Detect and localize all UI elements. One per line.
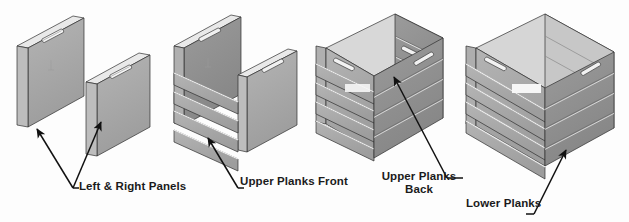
label-upper-planks-front: Upper Planks Front: [240, 175, 348, 188]
step-1-left-right-panels: [17, 16, 150, 188]
step-3-upper-planks-back: [316, 14, 463, 178]
panel-right: [86, 53, 150, 156]
step-4-lower-planks: [466, 14, 614, 214]
panel-left: [17, 16, 84, 127]
side-panel-near: [238, 49, 297, 152]
label-upper-planks-back: Upper Planks Back: [376, 170, 462, 196]
label-left-right-panels: Left & Right Panels: [79, 180, 186, 193]
label-lower-planks: Lower Planks: [466, 197, 541, 210]
step-2-upper-planks-front: [174, 15, 297, 188]
